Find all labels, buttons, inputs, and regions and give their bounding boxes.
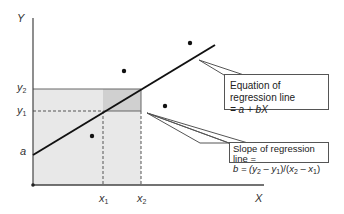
data-point: [90, 134, 94, 138]
x1-label: x1: [99, 192, 108, 205]
data-point: [122, 69, 126, 73]
a-label: a: [20, 145, 26, 157]
x2-label: x2: [137, 192, 146, 205]
slope-callout: Slope of regression line = b = (y2 – y1)…: [229, 142, 329, 163]
x-axis-label: X: [255, 192, 262, 204]
y2-label: y2: [17, 81, 26, 94]
equation-callout: Equation of regression line = a + bX: [224, 74, 329, 110]
slope-pointer-b: [147, 113, 229, 143]
data-point: [188, 41, 192, 45]
y-axis-label: Y: [17, 12, 24, 24]
equation-pointer: [199, 60, 244, 75]
data-point: [163, 104, 167, 108]
y1-label: y1: [17, 104, 26, 117]
slope-pointer-a: [147, 113, 248, 143]
